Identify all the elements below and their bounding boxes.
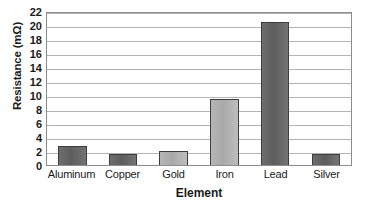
gridline: [47, 165, 351, 166]
x-tick-label: Silver: [301, 168, 352, 180]
x-tick-label: Aluminum: [46, 168, 97, 180]
x-tick-label: Iron: [199, 168, 250, 180]
y-tick-label: 14: [20, 63, 42, 74]
bar-lead[interactable]: [261, 22, 289, 166]
bar-slot: [47, 13, 98, 165]
y-tick-label: 6: [20, 119, 42, 130]
y-tick-label: 16: [20, 49, 42, 60]
bar-iron[interactable]: [210, 99, 238, 165]
x-tick-label: Lead: [250, 168, 301, 180]
bar-chart: Resistance (mΩ) 0246810121416182022 Alum…: [0, 0, 366, 207]
plot-area: [46, 12, 352, 166]
y-tick-label: 12: [20, 77, 42, 88]
y-tick-label: 8: [20, 105, 42, 116]
x-axis-title: Element: [46, 186, 352, 200]
x-tick-label: Copper: [97, 168, 148, 180]
bar-copper[interactable]: [109, 154, 137, 165]
y-tick-label: 10: [20, 91, 42, 102]
y-tick-label: 20: [20, 21, 42, 32]
bar-silver[interactable]: [312, 154, 340, 165]
bar-slot: [199, 13, 250, 165]
bar-slot: [250, 13, 301, 165]
x-axis-tick-labels: AluminumCopperGoldIronLeadSilver: [46, 168, 352, 180]
x-tick-label: Gold: [148, 168, 199, 180]
bar-slot: [148, 13, 199, 165]
y-tick-label: 4: [20, 133, 42, 144]
bar-slot: [300, 13, 351, 165]
bar-slot: [98, 13, 149, 165]
y-tick-label: 0: [20, 161, 42, 172]
bars-group: [47, 13, 351, 165]
y-tick-label: 2: [20, 147, 42, 158]
bar-gold[interactable]: [159, 151, 187, 165]
y-axis-tick-labels: 0246810121416182022: [20, 12, 42, 166]
bar-aluminum[interactable]: [58, 146, 86, 165]
y-tick-label: 18: [20, 35, 42, 46]
y-tick-label: 22: [20, 7, 42, 18]
